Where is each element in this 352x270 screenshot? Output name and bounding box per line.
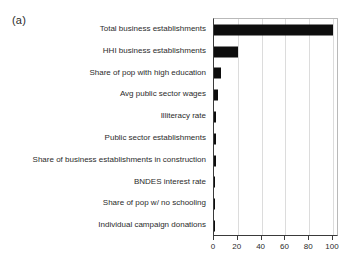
category-label: HHI business establishments bbox=[103, 40, 206, 62]
x-tick bbox=[284, 236, 285, 240]
x-tick bbox=[213, 236, 214, 240]
category-label: Total business establishments bbox=[100, 18, 206, 40]
x-tick-label: 20 bbox=[232, 242, 241, 251]
x-tick bbox=[332, 236, 333, 240]
bar bbox=[214, 90, 218, 101]
x-tick-label: 0 bbox=[211, 242, 215, 251]
x-axis: 020406080100 bbox=[213, 236, 338, 262]
bar-row bbox=[214, 172, 337, 194]
bar bbox=[214, 68, 221, 79]
bar bbox=[214, 133, 216, 144]
category-axis-labels: Total business establishmentsHHI busines… bbox=[0, 18, 210, 236]
bar bbox=[214, 221, 215, 232]
bar-row bbox=[214, 128, 337, 150]
x-tick-label: 60 bbox=[280, 242, 289, 251]
category-label: Avg public sector wages bbox=[120, 83, 206, 105]
x-tick bbox=[308, 236, 309, 240]
bar bbox=[214, 112, 216, 123]
bar-chart: Total business establishmentsHHI busines… bbox=[0, 0, 352, 270]
x-tick-label: 100 bbox=[325, 242, 338, 251]
x-tick bbox=[261, 236, 262, 240]
bar bbox=[214, 46, 238, 57]
category-label: Share of business establishments in cons… bbox=[33, 149, 206, 171]
bar bbox=[214, 155, 216, 166]
category-label: Illiteracy rate bbox=[161, 105, 206, 127]
x-tick bbox=[237, 236, 238, 240]
bar-row bbox=[214, 41, 337, 63]
x-tick-label: 40 bbox=[256, 242, 265, 251]
category-label: Share of pop w/ no schooling bbox=[103, 192, 206, 214]
bar-row bbox=[214, 193, 337, 215]
bar-rows bbox=[214, 19, 337, 235]
category-label: Public sector establishments bbox=[105, 127, 206, 149]
category-label: Individual campaign donations bbox=[98, 214, 206, 236]
bar-row bbox=[214, 150, 337, 172]
bar-row bbox=[214, 106, 337, 128]
bar-row bbox=[214, 84, 337, 106]
category-label: BNDES interest rate bbox=[134, 171, 206, 193]
bar bbox=[214, 177, 215, 188]
bar-row bbox=[214, 63, 337, 85]
bar-row bbox=[214, 215, 337, 237]
x-tick-label: 80 bbox=[304, 242, 313, 251]
figure-panel-a: (a) Total business establishmentsHHI bus… bbox=[0, 0, 352, 270]
bar bbox=[214, 24, 333, 35]
bar-row bbox=[214, 19, 337, 41]
bar bbox=[214, 199, 215, 210]
category-label: Share of pop with high education bbox=[89, 62, 206, 84]
plot-area bbox=[213, 18, 338, 236]
